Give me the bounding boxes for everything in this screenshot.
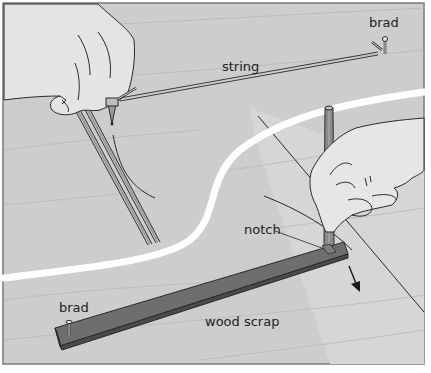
illustration-canvas: brad string notch brad wood scrap bbox=[0, 0, 431, 373]
label-wood-scrap: wood scrap bbox=[205, 314, 279, 329]
label-brad-bottom: brad bbox=[59, 300, 89, 315]
label-string: string bbox=[222, 59, 259, 74]
illustration-frame: brad string notch brad wood scrap bbox=[0, 0, 431, 373]
label-notch: notch bbox=[244, 222, 281, 237]
label-brad-top: brad bbox=[369, 15, 399, 30]
